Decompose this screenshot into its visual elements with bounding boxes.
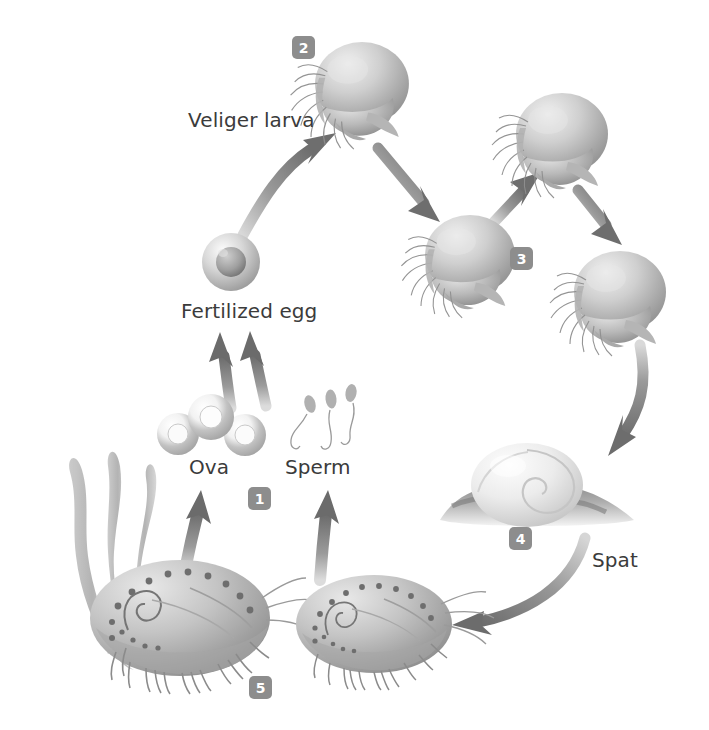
arrow-sperm-to-egg [240, 331, 266, 406]
stage-badge-1: 1 [248, 487, 271, 510]
sperm-cluster [291, 383, 358, 449]
arrow-veliger2-to-veliger3 [494, 172, 541, 222]
arrow-egg-to-veliger [243, 133, 336, 235]
diagram-artwork [0, 0, 709, 730]
stage-badge-2: 2 [292, 36, 315, 59]
arrow-veliger4-to-spat [608, 345, 643, 456]
label-veliger-larva: Veliger larva [188, 108, 315, 132]
arrow-veliger3-to-veliger4 [578, 190, 622, 245]
spat-shell [440, 443, 634, 527]
life-cycle-diagram: Veliger larva Fertilized egg Ova Sperm S… [0, 0, 709, 730]
veliger-larva-3 [492, 93, 608, 198]
arrow-adult-to-sperm [314, 490, 339, 580]
label-fertilized-egg: Fertilized egg [181, 299, 317, 323]
veliger-larva-2 [401, 215, 515, 318]
page-footnote-cropped [6, 714, 706, 728]
stage-badge-3: 3 [510, 247, 533, 270]
arrow-adult-to-ova [185, 490, 211, 570]
label-ova: Ova [189, 455, 229, 479]
adult-abalone-right [296, 575, 494, 690]
arrow-veliger1-to-veliger2 [378, 148, 440, 222]
label-spat: Spat [592, 548, 638, 572]
stage-badge-4: 4 [509, 527, 532, 550]
fertilized-egg-cell [202, 233, 260, 291]
adult-abalone-left [90, 560, 312, 694]
ova-cluster [157, 394, 266, 456]
label-sperm: Sperm [285, 455, 351, 479]
arrow-spat-to-adult [452, 538, 585, 635]
stage-badge-5: 5 [249, 676, 272, 699]
veliger-larva-4 [550, 251, 666, 356]
